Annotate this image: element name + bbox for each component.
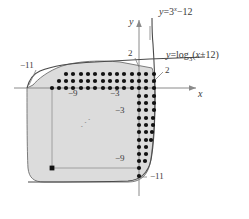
tick-label-x-2: 2 — [165, 66, 170, 75]
log-label-var: x — [195, 49, 199, 60]
tick-label-x-neg9: −9 — [68, 89, 78, 98]
tick-label-y-neg9: −9 — [115, 154, 125, 163]
tick-label-y-2: 2 — [128, 49, 133, 58]
exp-label-y: y — [159, 6, 163, 17]
shaded-region — [27, 61, 155, 182]
corner-marker — [50, 166, 55, 171]
ellipsis-marker: ⋰ — [80, 118, 91, 129]
tick-label-y-neg3: −3 — [115, 106, 125, 115]
x-axis-label: x — [198, 89, 202, 99]
y-axis-label: y — [129, 17, 133, 27]
tick-label-x-neg11: −11 — [20, 61, 34, 70]
exp-curve-label: y=3x−12 — [159, 6, 193, 17]
tick-label-y-neg11: −11 — [150, 172, 164, 181]
graph-figure: y=3x−12 y=log3(x+12) −11 −9 −3 2 2 −3 −9… — [0, 0, 249, 219]
log-label-y: y — [166, 49, 170, 60]
tick-label-x-neg3: −3 — [110, 89, 120, 98]
exp-label-tail: −12 — [177, 6, 193, 17]
log-label-base: 3 — [189, 55, 192, 62]
log-curve-label: y=log3(x+12) — [166, 50, 219, 63]
